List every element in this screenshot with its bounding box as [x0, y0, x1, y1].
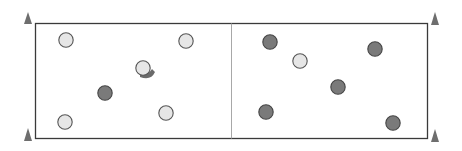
player-light: [293, 54, 307, 68]
cone-icon-bottom-left: [24, 128, 32, 141]
player-light: [159, 106, 173, 120]
cone-icon-top-right: [431, 12, 439, 25]
player-dark: [386, 116, 400, 130]
player-dark: [98, 86, 112, 100]
field-svg: [0, 0, 462, 151]
player-dark: [263, 35, 277, 49]
player-dark: [368, 42, 382, 56]
drill-diagram: [0, 0, 462, 151]
player-dark: [259, 105, 273, 119]
cone-icon-top-left: [24, 12, 32, 24]
cone-icon-bottom-right: [431, 129, 439, 142]
player-light: [59, 33, 73, 47]
player-light: [179, 34, 193, 48]
player-dark: [331, 80, 345, 94]
player-light: [136, 61, 150, 75]
player-light: [58, 115, 72, 129]
players-layer: [58, 33, 400, 130]
